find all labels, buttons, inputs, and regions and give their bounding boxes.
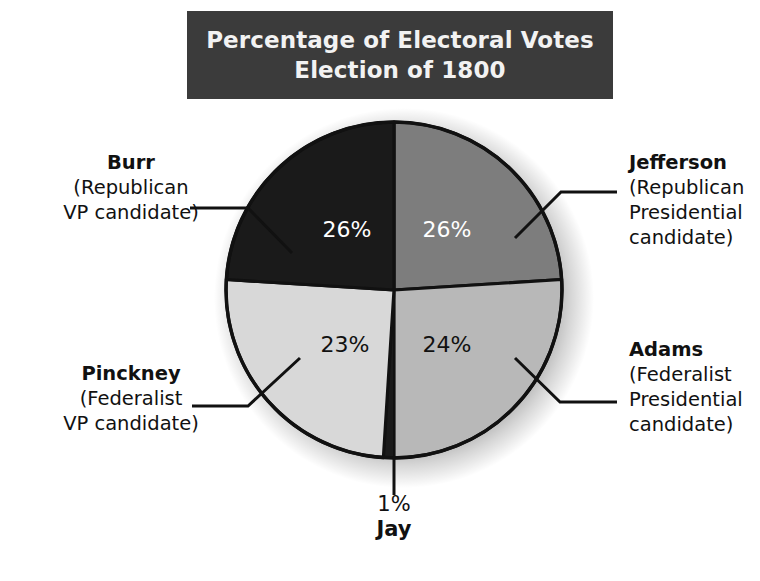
- callout-burr-name: Burr: [26, 150, 236, 175]
- callout-adams-line-1: (Federalist: [629, 362, 760, 387]
- callout-jefferson-line-3: candidate): [629, 225, 760, 250]
- callout-adams: Adams (Federalist Presidential candidate…: [629, 337, 760, 437]
- callout-jefferson-line-2: Presidential: [629, 200, 760, 225]
- callout-pinckney-line-2: VP candidate): [26, 411, 236, 436]
- callout-burr-line-2: VP candidate): [26, 200, 236, 225]
- callout-pinckney: Pinckney (Federalist VP candidate): [26, 361, 236, 436]
- pie-value-jefferson: 26%: [423, 217, 472, 242]
- callout-jefferson: Jefferson (Republican Presidential candi…: [629, 150, 760, 250]
- callout-pinckney-name: Pinckney: [26, 361, 236, 386]
- callout-burr-line-1: (Republican: [26, 175, 236, 200]
- callout-jay-percent: 1%: [334, 492, 454, 517]
- pie-value-adams: 24%: [423, 332, 472, 357]
- callout-jay-name: Jay: [334, 517, 454, 542]
- callout-jay: 1% Jay: [334, 492, 454, 542]
- callout-burr: Burr (Republican VP candidate): [26, 150, 236, 225]
- pie-value-pinckney: 23%: [321, 332, 370, 357]
- pie-slice-jefferson[interactable]: [394, 122, 562, 290]
- callout-pinckney-line-1: (Federalist: [26, 386, 236, 411]
- pie-slice-pinckney[interactable]: [226, 280, 394, 458]
- pie-value-burr: 26%: [323, 217, 372, 242]
- callout-jefferson-name: Jefferson: [629, 150, 760, 175]
- pie-chart: 26% 26% 23% 24% Burr (Republican VP cand…: [0, 0, 760, 581]
- callout-jefferson-line-1: (Republican: [629, 175, 760, 200]
- callout-adams-name: Adams: [629, 337, 760, 362]
- callout-adams-line-2: Presidential: [629, 387, 760, 412]
- callout-adams-line-3: candidate): [629, 412, 760, 437]
- pie-slice-burr[interactable]: [226, 122, 394, 290]
